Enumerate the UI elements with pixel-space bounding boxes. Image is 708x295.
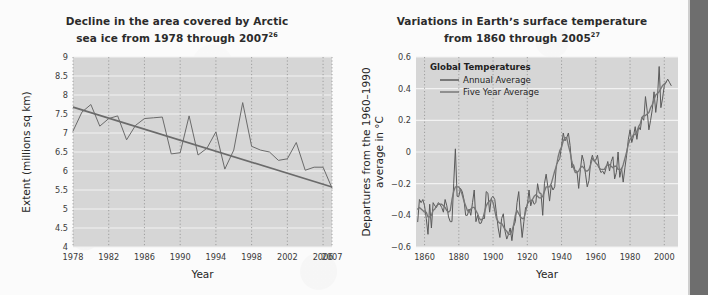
x-tick-label: 1998 (241, 252, 262, 262)
x-tick-label: 2007 (322, 252, 343, 262)
y-tick-label: −0.6 (391, 242, 411, 252)
y-tick-label: −0.4 (391, 210, 411, 220)
x-tick-label: 1994 (205, 252, 226, 262)
x-tick-label: 1860 (414, 252, 435, 262)
y-tick-label: 8.5 (55, 71, 68, 81)
x-tick-label: 1940 (551, 252, 572, 262)
y-tick-label: 4 (63, 242, 68, 252)
plot-wrap-arctic: 44.555.566.577.588.591978198219861990199… (0, 0, 354, 295)
legend-entry-label: Five Year Average (463, 87, 539, 97)
figure-page: Decline in the area covered by Arctic se… (0, 0, 708, 295)
y-tick-label: 0 (406, 147, 411, 157)
chart-svg-temperature: −0.6−0.4−0.200.20.40.6186018801900192019… (354, 0, 690, 295)
y-axis-label-line2: average in °C (373, 116, 385, 188)
y-tick-label: 8 (63, 90, 68, 100)
y-tick-label: −0.2 (391, 179, 411, 189)
x-axis-label: Year (190, 268, 214, 280)
plot-wrap-temperature: −0.6−0.4−0.200.20.40.6186018801900192019… (354, 0, 690, 295)
x-tick-label: 1960 (585, 252, 606, 262)
y-tick-label: 5.5 (55, 185, 68, 195)
x-tick-label: 2000 (654, 252, 675, 262)
x-axis-label: Year (535, 268, 559, 280)
figure-surface-temperature: Variations in Earthʼs surface temperatur… (354, 0, 690, 295)
x-tick-label: 1982 (98, 252, 119, 262)
y-tick-label: 9 (63, 52, 68, 62)
y-axis-label-line1: Departures from the 1960–1990 (360, 67, 372, 236)
y-tick-label: 5 (63, 204, 68, 214)
y-tick-label: 0.4 (398, 84, 411, 94)
y-tick-label: 4.5 (55, 223, 68, 233)
y-tick-label: 7 (63, 128, 68, 138)
y-tick-label: 6.5 (55, 147, 68, 157)
x-tick-label: 1900 (483, 252, 504, 262)
y-tick-label: 7.5 (55, 109, 68, 119)
x-tick-label: 1880 (448, 252, 469, 262)
chart-svg-arctic: 44.555.566.577.588.591978198219861990199… (0, 0, 354, 295)
legend-entry-label: Annual Average (463, 75, 531, 85)
x-tick-label: 1980 (620, 252, 641, 262)
y-tick-label: 6 (63, 166, 68, 176)
x-tick-label: 2002 (277, 252, 298, 262)
figure-arctic-sea-ice: Decline in the area covered by Arctic se… (0, 0, 354, 295)
y-axis-label: Extent (millions sq km) (20, 91, 32, 212)
legend-title: Global Temperatures (430, 62, 531, 72)
y-axis-label: Departures from the 1960–1990average in … (360, 67, 385, 236)
x-tick-label: 1978 (63, 252, 84, 262)
page-right-rail (690, 0, 708, 295)
x-tick-label: 1986 (134, 252, 155, 262)
y-tick-label: 0.6 (398, 52, 411, 62)
x-tick-label: 1990 (170, 252, 191, 262)
x-tick-label: 1920 (517, 252, 538, 262)
y-tick-label: 0.2 (398, 115, 411, 125)
